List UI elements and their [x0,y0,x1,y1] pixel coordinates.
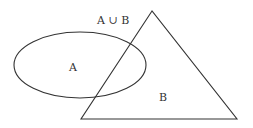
set-b-label: B [159,91,167,104]
venn-diagram: A ∪ B A B [0,0,253,128]
set-a-label: A [68,61,78,74]
union-label: A ∪ B [96,14,129,27]
set-a-ellipse [14,32,146,98]
